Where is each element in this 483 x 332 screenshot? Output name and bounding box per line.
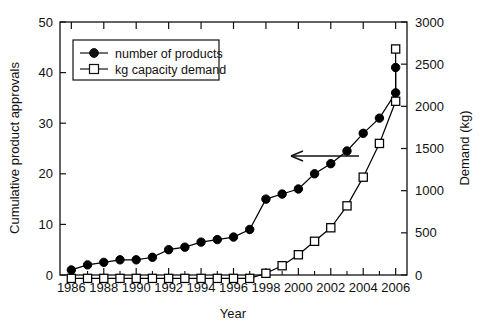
data-point-filled-circle	[100, 258, 108, 266]
figure: 01020304050 050010001500200025003000 198…	[0, 0, 483, 332]
x-tick-label: 1998	[251, 280, 280, 295]
y-tick-label-left: 40	[39, 65, 53, 80]
data-point-open-square	[229, 274, 237, 282]
y-tick-label-left: 10	[39, 217, 53, 232]
y-tick-label-right: 2000	[415, 99, 444, 114]
data-point-filled-circle	[343, 147, 351, 155]
series-1	[67, 63, 400, 274]
chart-canvas: 01020304050 050010001500200025003000 198…	[0, 0, 483, 332]
data-point-filled-circle	[83, 261, 91, 269]
data-point-filled-circle	[294, 185, 302, 193]
data-point-filled-circle	[67, 266, 75, 274]
x-tick-label: 2006	[381, 280, 410, 295]
data-point-filled-circle	[246, 225, 254, 233]
legend-label-kg-capacity-demand: kg capacity demand	[115, 63, 226, 77]
series-line	[71, 49, 395, 278]
data-point-open-square	[392, 45, 400, 53]
legend-label-number-of-products: number of products	[115, 47, 223, 61]
data-point-filled-circle	[181, 243, 189, 251]
data-point-filled-circle	[310, 170, 318, 178]
y-tick-label-right: 1000	[415, 183, 444, 198]
data-point-open-square	[278, 262, 286, 270]
data-point-open-square	[392, 97, 400, 105]
x-axis-title: Year	[220, 306, 247, 321]
x-tick-label: 2004	[349, 280, 378, 295]
data-point-filled-circle	[278, 190, 286, 198]
data-point-filled-circle	[148, 253, 156, 261]
data-point-open-square	[197, 274, 205, 282]
y-tick-label-right: 3000	[415, 15, 444, 30]
data-point-open-square	[343, 202, 351, 210]
y-tick-label-left: 20	[39, 166, 53, 181]
y-tick-label-left: 50	[39, 15, 53, 30]
y-tick-label-right: 2500	[415, 57, 444, 72]
data-point-open-square	[181, 274, 189, 282]
data-point-open-square	[262, 269, 270, 277]
y-axis-right-title: Demand (kg)	[457, 110, 472, 185]
data-point-filled-circle	[213, 235, 221, 243]
data-point-open-square	[165, 274, 173, 282]
data-point-open-square	[375, 139, 383, 147]
data-point-open-square	[310, 237, 318, 245]
data-point-filled-circle	[375, 114, 383, 122]
y-axis-right-ticks	[401, 22, 407, 275]
data-point-open-square	[359, 173, 367, 181]
data-point-open-square	[246, 274, 254, 282]
data-point-filled-circle	[197, 238, 205, 246]
top-axis-ticks	[71, 22, 395, 29]
data-point-filled-circle	[132, 256, 140, 264]
y-axis-left-ticks	[60, 22, 66, 275]
data-point-open-square	[294, 251, 302, 259]
data-point-open-square	[67, 274, 75, 282]
data-point-open-square	[132, 274, 140, 282]
y-axis-left-labels: 01020304050	[39, 15, 53, 283]
data-point-open-square	[100, 274, 108, 282]
data-point-filled-circle	[327, 159, 335, 167]
data-point-open-square	[148, 274, 156, 282]
y-tick-label-right: 500	[415, 225, 437, 240]
y-tick-label-left: 30	[39, 116, 53, 131]
open-square-icon	[90, 65, 99, 74]
data-point-filled-circle	[116, 256, 124, 264]
x-tick-label: 2002	[316, 280, 345, 295]
legend: number of products kg capacity demand	[73, 40, 226, 80]
data-point-open-square	[83, 274, 91, 282]
y-tick-label-left: 0	[46, 268, 53, 283]
data-point-open-square	[213, 274, 221, 282]
data-point-filled-circle	[164, 246, 172, 254]
data-point-filled-circle	[229, 233, 237, 241]
x-tick-label: 2000	[284, 280, 313, 295]
data-point-open-square	[116, 274, 124, 282]
y-tick-label-right: 1500	[415, 141, 444, 156]
data-point-filled-circle	[262, 195, 270, 203]
y-axis-left-title: Cumulative product approvals	[7, 62, 22, 234]
y-axis-right-labels: 050010001500200025003000	[415, 15, 444, 283]
filled-circle-icon	[90, 49, 99, 58]
y-tick-label-right: 0	[415, 268, 422, 283]
data-point-open-square	[327, 224, 335, 232]
data-point-filled-circle	[359, 129, 367, 137]
